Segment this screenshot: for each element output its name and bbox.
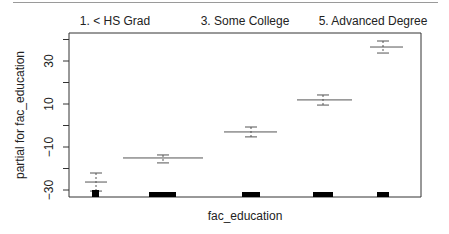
top-category-label: 5. Advanced Degree bbox=[319, 14, 428, 28]
error-bar-group bbox=[123, 155, 203, 163]
top-category-label: 1. < HS Grad bbox=[80, 14, 150, 28]
error-bar-group bbox=[224, 127, 277, 137]
rug-bar bbox=[92, 190, 99, 197]
rug-bar bbox=[313, 192, 333, 197]
category-labels-top: 1. < HS Grad3. Some College5. Advanced D… bbox=[80, 14, 428, 28]
y-tick-label: 30 bbox=[42, 54, 56, 68]
chart: 1. < HS Grad3. Some College5. Advanced D… bbox=[0, 0, 449, 234]
error-bar-group bbox=[85, 173, 107, 191]
rug-bars bbox=[92, 190, 389, 197]
rug-bar bbox=[377, 192, 389, 197]
y-axis-label: partial for fac_education bbox=[13, 51, 27, 179]
y-tick-label: 10 bbox=[42, 97, 56, 111]
y-tick-label: −10 bbox=[42, 136, 56, 157]
error-bar-group bbox=[297, 95, 352, 105]
error-bar-group bbox=[370, 41, 403, 53]
rug-bar bbox=[242, 192, 260, 197]
rug-bar bbox=[149, 192, 176, 197]
axes: −30−101030 bbox=[42, 33, 421, 200]
error-bars bbox=[85, 41, 403, 191]
x-axis-label: fac_education bbox=[208, 209, 283, 223]
y-tick-label: −30 bbox=[42, 179, 56, 200]
plot-frame bbox=[69, 33, 421, 197]
top-category-label: 3. Some College bbox=[201, 14, 290, 28]
